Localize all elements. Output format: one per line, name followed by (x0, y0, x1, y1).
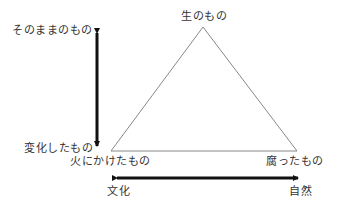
vertex-label-raw: 生のもの (181, 11, 227, 22)
axis-label-culture: 文化 (107, 186, 130, 197)
vertex-label-cooked: 火にかけたもの (70, 156, 151, 167)
axis-label-transformed: 変化したもの (24, 143, 93, 154)
axis-label-nature: 自然 (289, 186, 312, 197)
axis-label-unchanged: そのままのもの (12, 25, 93, 36)
culinary-triangle (111, 27, 297, 151)
vertex-label-rotten: 腐ったもの (266, 156, 324, 167)
